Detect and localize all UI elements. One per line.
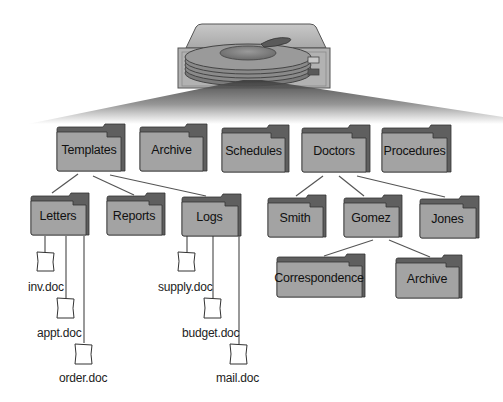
directory-tree-diagram: Templates Archive Schedules Doctors Proc… xyxy=(0,0,503,402)
folder-label: Smith xyxy=(266,206,324,230)
folder-label: Archive xyxy=(394,266,460,291)
projection-cone xyxy=(28,80,503,124)
folder-label: Correspondence xyxy=(275,265,363,290)
folder-reports[interactable]: Reports xyxy=(105,192,167,237)
folder-archive[interactable]: Archive xyxy=(138,123,209,173)
doc-icon xyxy=(37,252,54,271)
folder-label: Templates xyxy=(55,135,123,164)
folder-label: Procedures xyxy=(380,136,449,165)
file-appt-doc[interactable]: appt.doc xyxy=(37,326,81,340)
file-supply-doc[interactable]: supply.doc xyxy=(158,280,212,294)
folder-label: Archive xyxy=(138,135,205,164)
file-mail-doc[interactable]: mail.doc xyxy=(216,371,259,385)
folder-doctors[interactable]: Doctors xyxy=(300,124,372,174)
file-order-doc[interactable]: order.doc xyxy=(59,371,107,385)
folder-label: Schedules xyxy=(220,136,287,165)
folder-label: Reports xyxy=(105,204,163,228)
folder-label: Letters xyxy=(29,204,87,228)
doc-icon xyxy=(178,252,195,271)
folder-letters[interactable]: Letters xyxy=(29,192,91,237)
file-inv-doc[interactable]: inv.doc xyxy=(28,280,64,294)
folder-procedures[interactable]: Procedures xyxy=(380,124,453,174)
folder-gomez-archive[interactable]: Archive xyxy=(394,254,464,300)
folder-templates[interactable]: Templates xyxy=(55,123,127,173)
folder-smith[interactable]: Smith xyxy=(266,194,328,239)
doc-icon xyxy=(230,344,247,364)
folder-schedules[interactable]: Schedules xyxy=(220,124,291,174)
folder-gomez[interactable]: Gomez xyxy=(342,194,404,239)
folder-label: Doctors xyxy=(300,136,368,165)
hard-drive-icon xyxy=(178,24,330,88)
doc-icon xyxy=(204,298,221,318)
doc-icon xyxy=(57,298,74,318)
folder-label: Jones xyxy=(418,207,477,231)
folder-correspondence[interactable]: Correspondence xyxy=(275,253,367,299)
folder-jones[interactable]: Jones xyxy=(418,195,481,240)
doc-icon xyxy=(75,344,92,364)
file-budget-doc[interactable]: budget.doc xyxy=(182,326,239,340)
doc-icons xyxy=(37,252,247,364)
folder-logs[interactable]: Logs xyxy=(180,193,243,238)
folder-label: Gomez xyxy=(342,206,400,230)
folder-label: Logs xyxy=(180,205,239,229)
